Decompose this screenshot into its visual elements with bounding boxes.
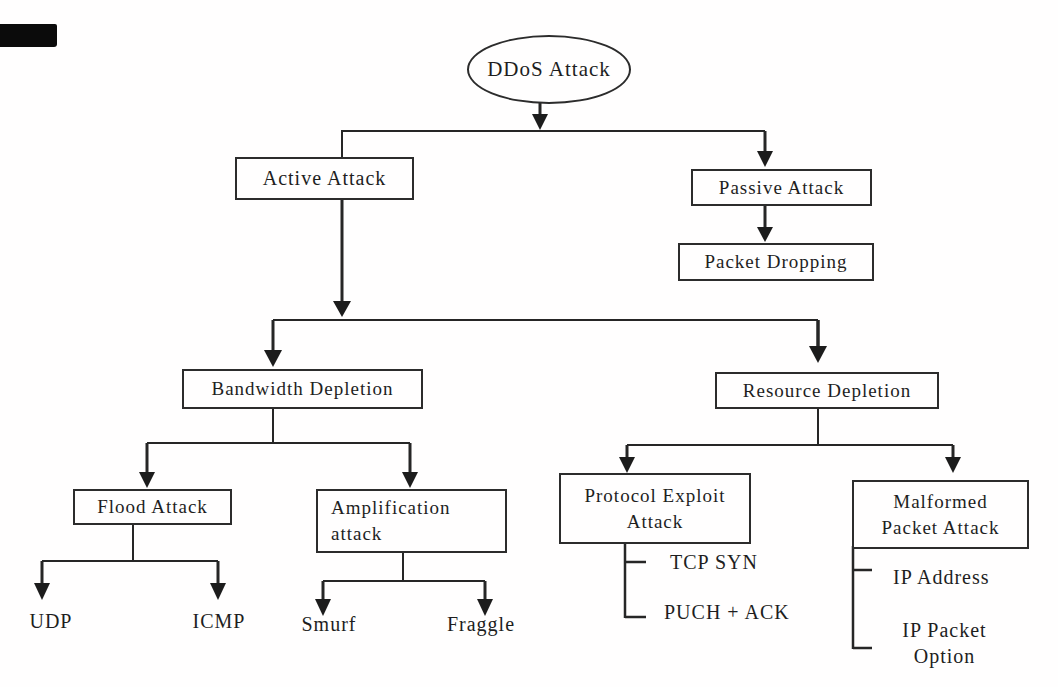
arrowhead-to-protocol bbox=[619, 457, 635, 473]
node-packet-dropping: Packet Dropping bbox=[678, 243, 874, 281]
arrowhead-ddos-down bbox=[532, 114, 548, 130]
leaf-tcp-syn: TCP SYN bbox=[670, 551, 758, 574]
edge-bus-level1 bbox=[342, 131, 765, 157]
leaf-smurf: Smurf bbox=[294, 613, 364, 636]
node-flood-attack-label: Flood Attack bbox=[97, 494, 208, 520]
node-bandwidth-depletion: Bandwidth Depletion bbox=[182, 369, 423, 409]
node-active-attack-label: Active Attack bbox=[263, 165, 387, 192]
edge-bandwidth-bus bbox=[147, 405, 410, 443]
node-protocol-exploit-attack-label: Protocol ExploitAttack bbox=[584, 483, 725, 534]
malformed-line1: Malformed bbox=[882, 489, 1000, 515]
leaf-puch-ack: PUCH + ACK bbox=[664, 601, 790, 624]
arrowhead-to-flood bbox=[139, 472, 155, 488]
node-packet-dropping-label: Packet Dropping bbox=[704, 249, 847, 275]
arrowhead-to-resource bbox=[809, 346, 827, 363]
ip-packet-option-line1: IP Packet bbox=[897, 617, 992, 643]
leaf-icmp: ICMP bbox=[183, 610, 255, 633]
bracket-malformed-packet bbox=[853, 546, 872, 649]
arrowhead-active-down bbox=[333, 301, 351, 317]
arrowhead-to-passive bbox=[757, 151, 773, 167]
ddos-taxonomy-diagram: DDoS Attack Active Attack Passive Attack… bbox=[0, 0, 1058, 687]
edge-resource-bus bbox=[627, 405, 953, 445]
node-passive-attack-label: Passive Attack bbox=[719, 175, 844, 201]
malformed-line2: Packet Attack bbox=[882, 515, 1000, 541]
node-resource-depletion: Resource Depletion bbox=[715, 372, 939, 409]
node-ddos-attack-label: DDoS Attack bbox=[487, 55, 611, 83]
node-passive-attack: Passive Attack bbox=[691, 169, 872, 206]
node-malformed-packet-attack-label: MalformedPacket Attack bbox=[882, 489, 1000, 540]
arrowhead-to-udp bbox=[34, 583, 50, 600]
node-bandwidth-depletion-label: Bandwidth Depletion bbox=[211, 376, 393, 402]
amplification-line1: Amplification bbox=[331, 495, 451, 521]
arrowhead-to-malformed bbox=[945, 457, 961, 473]
leaf-fraggle: Fraggle bbox=[441, 613, 521, 636]
node-ddos-attack: DDoS Attack bbox=[467, 35, 631, 104]
arrowhead-to-amplification bbox=[402, 472, 418, 488]
protocol-line1: Protocol Exploit bbox=[584, 483, 725, 509]
node-malformed-packet-attack: MalformedPacket Attack bbox=[852, 480, 1029, 549]
leaf-ip-packet-option: IP PacketOption bbox=[897, 617, 992, 669]
node-resource-depletion-label: Resource Depletion bbox=[743, 378, 911, 404]
leaf-ip-address: IP Address bbox=[893, 566, 989, 589]
node-active-attack: Active Attack bbox=[235, 157, 414, 200]
bracket-protocol-exploit bbox=[625, 540, 646, 618]
edge-flood-bus bbox=[42, 521, 218, 561]
node-amplification-attack-label: Amplificationattack bbox=[331, 495, 451, 546]
arrowhead-to-icmp bbox=[210, 583, 226, 600]
leaf-udp: UDP bbox=[20, 610, 82, 633]
arrowhead-to-bandwidth bbox=[264, 350, 282, 367]
leaf-ip-packet-option-label: IP PacketOption bbox=[897, 617, 992, 669]
node-amplification-attack: Amplificationattack bbox=[316, 489, 507, 553]
ip-packet-option-line2: Option bbox=[897, 643, 992, 669]
node-flood-attack: Flood Attack bbox=[73, 489, 232, 525]
protocol-line2: Attack bbox=[584, 509, 725, 535]
node-protocol-exploit-attack: Protocol ExploitAttack bbox=[559, 473, 751, 544]
arrowhead-to-packet-dropping bbox=[757, 227, 773, 242]
amplification-line2: attack bbox=[331, 521, 451, 547]
